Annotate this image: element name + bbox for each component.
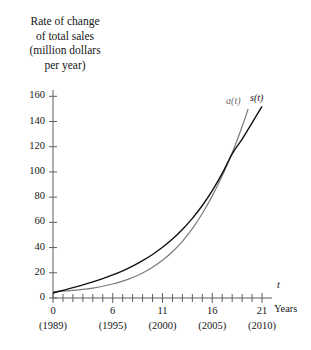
- x-tick-year-label: (2010): [237, 320, 287, 331]
- x-tick-year-label: (1995): [88, 320, 138, 331]
- x-tick-label: 6: [88, 305, 138, 316]
- y-tick-label: 100: [10, 165, 45, 176]
- x-tick-label: 11: [138, 305, 188, 316]
- y-tick-label: 60: [10, 215, 45, 226]
- x-tick-year-label: (2000): [138, 320, 188, 331]
- curve-label-a: a(t): [226, 95, 240, 106]
- y-tick-label: 20: [10, 266, 45, 277]
- curve-group: [53, 106, 262, 293]
- y-tick-label: 160: [10, 89, 45, 100]
- y-tick-label: 40: [10, 241, 45, 252]
- y-tick-label: 140: [10, 115, 45, 126]
- x-tick-label: 16: [187, 305, 237, 316]
- y-tick-label: 0: [10, 291, 45, 302]
- x-axis-variable-label: t: [277, 279, 280, 290]
- curve-a-of-t: [53, 109, 248, 292]
- curve-s-of-t: [53, 106, 262, 293]
- x-tick-year-label: (1989): [28, 320, 78, 331]
- x-tick-label: 0: [28, 305, 78, 316]
- y-tick-label: 120: [10, 140, 45, 151]
- curve-label-s: s(t): [250, 92, 263, 103]
- plot-area: [0, 0, 311, 350]
- y-tick-label: 80: [10, 190, 45, 201]
- x-axis-name-label: Years: [274, 303, 297, 314]
- chart-figure: Rate of change of total sales (million d…: [0, 0, 311, 350]
- axes: [53, 90, 272, 298]
- x-tick-year-label: (2005): [187, 320, 237, 331]
